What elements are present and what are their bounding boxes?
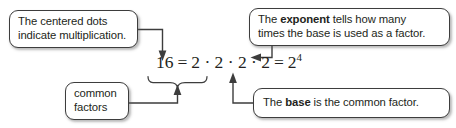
diagram-canvas: The centered dots indicate multiplicatio… (0, 0, 456, 128)
underbrace (148, 77, 207, 89)
equation-left-value: 16 (156, 52, 174, 72)
callout-base-line-1: The base is the common factor. (263, 96, 449, 110)
connector-exponent (251, 46, 273, 61)
callout-centered-dots-line-1: The centered dots (18, 15, 137, 29)
callout-exponent-line-1: The exponent tells how many (258, 13, 449, 27)
callout-exponent-text-a: The (258, 13, 280, 25)
callout-centered-dots-line-2: indicate multiplication. (18, 29, 137, 43)
equation-equals-second: = (274, 52, 284, 72)
equation-factors: 2 · 2 · 2 · 2 (191, 52, 270, 72)
callout-base-text-c: is the common factor. (311, 96, 419, 108)
equation-exponent: 4 (297, 51, 303, 63)
equation-inner: 16=2 · 2 · 2 · 2=24 (154, 52, 302, 73)
callout-common-factors[interactable]: common factors (65, 82, 129, 120)
callout-exponent[interactable]: The exponent tells how many times the ba… (249, 8, 450, 46)
equation: 16=2 · 2 · 2 · 2=24 (0, 52, 456, 82)
callout-base-keyword: base (285, 96, 310, 108)
connector-common-factors (129, 85, 181, 104)
callout-exponent-keyword: exponent (280, 13, 329, 25)
callout-common-factors-line-1: common (74, 87, 128, 101)
equation-base: 2 (288, 52, 297, 72)
callout-exponent-text-c: tells how many (330, 13, 406, 25)
callout-exponent-line-2: times the base is used as a factor. (258, 27, 449, 41)
connector-base (229, 73, 253, 104)
callout-base-text-a: The (263, 96, 285, 108)
callout-common-factors-line-2: factors (74, 101, 128, 115)
equation-equals-first: = (177, 52, 187, 72)
callout-base[interactable]: The base is the common factor. (253, 88, 450, 118)
callout-centered-dots[interactable]: The centered dots indicate multiplicatio… (9, 10, 138, 48)
connector-dots (138, 30, 166, 62)
